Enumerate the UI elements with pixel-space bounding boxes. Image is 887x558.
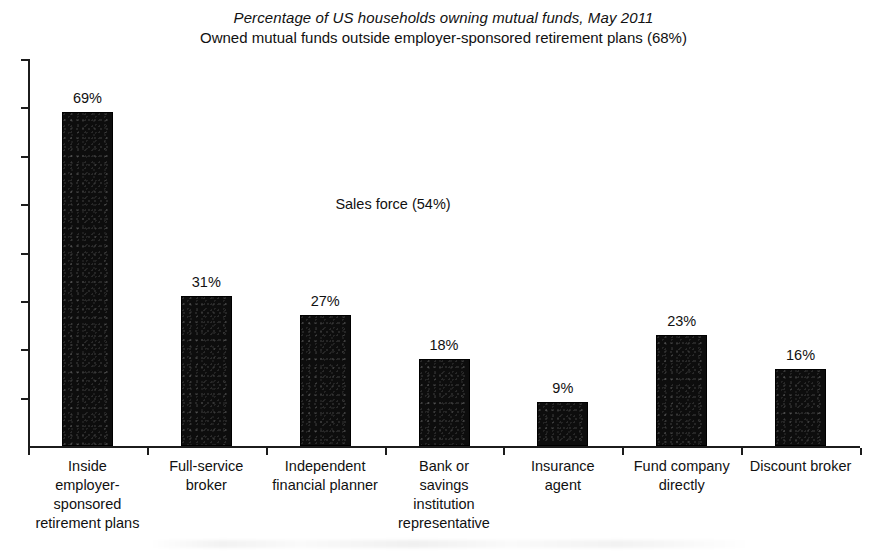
category-label-line: sponsored — [22, 495, 153, 514]
x-axis-category-label: Insuranceagent — [497, 457, 628, 495]
chart-page: Percentage of US households owning mutua… — [0, 0, 887, 558]
x-axis-tick — [741, 448, 743, 455]
category-label-line: financial planner — [260, 476, 391, 495]
category-label-line: directly — [616, 476, 747, 495]
x-axis-category-label: Discount broker — [735, 457, 866, 476]
category-label-line: Full-service — [141, 457, 272, 476]
x-axis-tick — [860, 448, 862, 455]
y-axis-tick — [21, 301, 30, 303]
y-axis-tick — [21, 107, 30, 109]
bar — [537, 402, 588, 446]
x-axis-tick — [28, 448, 30, 455]
category-label-line: retirement plans — [22, 514, 153, 533]
category-label-line: Fund company — [616, 457, 747, 476]
bar-value-label: 27% — [275, 293, 375, 309]
category-label-line: Bank or — [379, 457, 510, 476]
x-axis-category-label: Insideemployer-sponsoredretirement plans — [22, 457, 153, 533]
y-axis-tick — [21, 349, 30, 351]
y-axis-tick — [21, 156, 30, 158]
bar — [656, 335, 707, 446]
x-axis-tick — [622, 448, 624, 455]
bar — [181, 296, 232, 446]
x-axis-category-label: Bank orsavingsinstitutionrepresentative — [379, 457, 510, 533]
x-axis-tick — [385, 448, 387, 455]
x-axis-tick — [503, 448, 505, 455]
sales-force-annotation: Sales force (54%) — [243, 196, 543, 212]
category-label-line: institution — [379, 495, 510, 514]
scan-artifact — [150, 540, 750, 548]
y-axis-tick — [21, 204, 30, 206]
bar — [775, 369, 826, 446]
plot-area: 69%31%27%18%9%23%16% Sales force (54%) I… — [0, 0, 887, 558]
bar-value-label: 31% — [156, 274, 256, 290]
y-axis-tick — [21, 398, 30, 400]
x-axis-category-label: Independentfinancial planner — [260, 457, 391, 495]
x-axis-category-label: Full-servicebroker — [141, 457, 272, 495]
y-axis-tick — [21, 253, 30, 255]
bar-value-label: 9% — [513, 380, 613, 396]
bar-value-label: 23% — [632, 313, 732, 329]
bar — [300, 315, 351, 446]
category-label-line: Discount broker — [735, 457, 866, 476]
bar — [62, 112, 113, 446]
x-axis-tick — [266, 448, 268, 455]
category-label-line: Insurance — [497, 457, 628, 476]
category-label-line: Inside — [22, 457, 153, 476]
category-label-line: representative — [379, 514, 510, 533]
y-axis-tick — [21, 59, 30, 61]
x-axis-tick — [147, 448, 149, 455]
bar-value-label: 18% — [394, 337, 494, 353]
bar-value-label: 16% — [751, 347, 851, 363]
category-label-line: employer- — [22, 476, 153, 495]
bar-value-label: 69% — [37, 90, 137, 106]
category-label-line: Independent — [260, 457, 391, 476]
category-label-line: broker — [141, 476, 272, 495]
bar — [419, 359, 470, 446]
x-axis-category-label: Fund companydirectly — [616, 457, 747, 495]
category-label-line: agent — [497, 476, 628, 495]
category-label-line: savings — [379, 476, 510, 495]
x-axis-line — [28, 446, 860, 448]
